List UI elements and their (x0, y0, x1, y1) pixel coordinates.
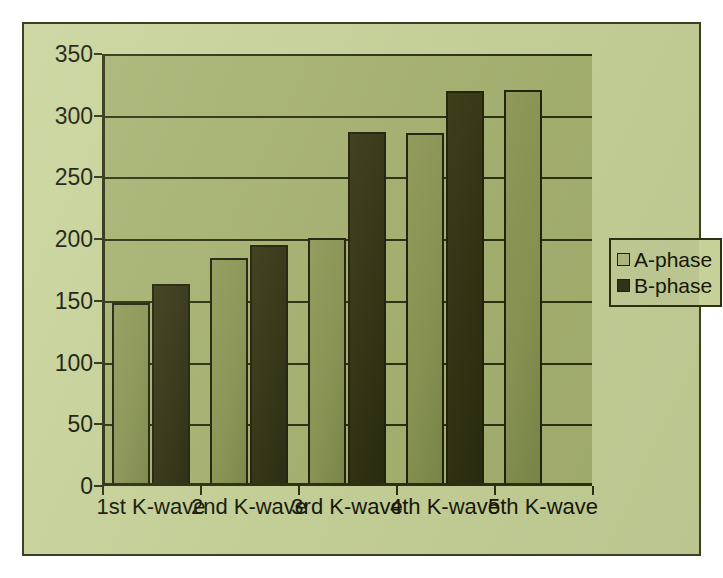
y-tick-mark (94, 53, 102, 55)
y-tick-label: 0 (80, 473, 93, 500)
y-tick-label: 300 (55, 102, 93, 129)
y-tick-label: 250 (55, 164, 93, 191)
bar-a-phase-1 (112, 303, 150, 486)
gridline (102, 54, 592, 56)
legend-item-a-phase: A-phase (617, 246, 712, 272)
y-tick-label: 50 (67, 411, 93, 438)
x-axis-line (102, 483, 592, 486)
y-tick-mark (94, 176, 102, 178)
y-tick-label: 100 (55, 349, 93, 376)
plot-area: 050100150200250300350 (102, 54, 592, 486)
x-axis-label-5: 5th K-wave (488, 494, 598, 520)
legend-label-b-phase: B-phase (634, 275, 712, 296)
chart-legend: A-phase B-phase (609, 238, 722, 307)
bar-b-phase-2 (250, 245, 288, 486)
bar-b-phase-1 (152, 284, 190, 486)
x-axis-label-2: 2nd K-wave (191, 494, 307, 520)
legend-swatch-b-phase (617, 279, 630, 292)
legend-item-b-phase: B-phase (617, 272, 712, 298)
bar-a-phase-4 (406, 133, 444, 486)
y-tick-mark (94, 423, 102, 425)
y-tick-mark (94, 300, 102, 302)
legend-swatch-a-phase (617, 253, 630, 266)
legend-label-a-phase: A-phase (634, 249, 712, 270)
y-axis-line (102, 54, 105, 486)
y-tick-mark (94, 238, 102, 240)
x-axis-label-4: 4th K-wave (390, 494, 500, 520)
chart-figure: 050100150200250300350 1st K-wave2nd K-wa… (22, 22, 701, 556)
y-tick-label: 200 (55, 226, 93, 253)
y-tick-mark (94, 115, 102, 117)
bar-a-phase-5 (504, 90, 542, 486)
bar-b-phase-3 (348, 132, 386, 486)
bar-a-phase-3 (308, 238, 346, 486)
y-tick-mark (94, 485, 102, 487)
y-tick-label: 150 (55, 287, 93, 314)
y-tick-label: 350 (55, 41, 93, 68)
x-axis-label-1: 1st K-wave (97, 494, 206, 520)
bar-a-phase-2 (210, 258, 248, 486)
x-axis-label-3: 3rd K-wave (291, 494, 402, 520)
x-axis-labels: 1st K-wave2nd K-wave3rd K-wave4th K-wave… (102, 494, 592, 524)
y-tick-mark (94, 362, 102, 364)
bar-b-phase-4 (446, 91, 484, 486)
